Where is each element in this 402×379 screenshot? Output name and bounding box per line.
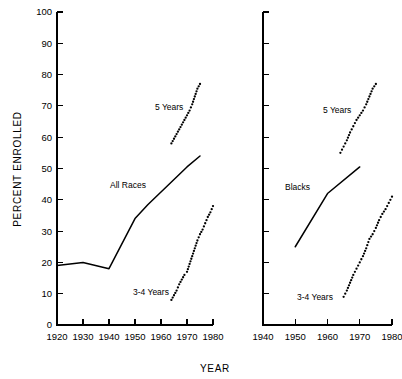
x-tick-label: 1920	[46, 331, 67, 342]
series-dot	[391, 196, 393, 198]
y-tick-label: 100	[36, 6, 52, 17]
series-dot	[372, 88, 374, 90]
series-dot	[354, 122, 356, 124]
series-dot	[342, 145, 344, 147]
series-dot	[351, 128, 353, 130]
series-dot	[347, 137, 349, 139]
x-tick-label: 1950	[285, 331, 306, 342]
series-dot	[347, 287, 349, 289]
series-dot	[181, 278, 183, 280]
series-dot	[188, 109, 190, 111]
series-label-3-4-years: 3-4 Years	[297, 292, 333, 302]
series-dot	[365, 103, 367, 105]
series-dot	[380, 216, 382, 218]
series-dot	[373, 230, 375, 232]
series-dot	[366, 244, 368, 246]
series-dot	[350, 279, 352, 281]
series-dot	[360, 258, 362, 260]
series-dot	[207, 216, 209, 218]
series-dot	[193, 250, 195, 252]
y-tick-label: 40	[41, 194, 52, 205]
y-tick-label: 50	[41, 163, 52, 174]
series-dot	[191, 103, 193, 105]
series-dot	[187, 112, 189, 114]
series-dot	[355, 119, 357, 121]
series-dot	[192, 252, 194, 254]
series-dot	[212, 205, 214, 207]
series-dot	[339, 152, 341, 154]
series-dot	[362, 255, 364, 257]
series-dot	[386, 205, 388, 207]
series-dot	[178, 283, 180, 285]
x-tick-label: 1940	[98, 331, 119, 342]
series-dot	[175, 133, 177, 135]
series-dot	[377, 222, 379, 224]
series-dot	[362, 109, 364, 111]
series-dot	[188, 265, 190, 267]
series-dot	[183, 274, 185, 276]
series-dot	[346, 139, 348, 141]
series-dot	[172, 140, 174, 142]
y-tick-label: 80	[41, 69, 52, 80]
series-dot	[177, 286, 179, 288]
series-line	[57, 156, 200, 269]
series-dot	[349, 131, 351, 133]
series-dot	[204, 222, 206, 224]
series-dot	[378, 219, 380, 221]
x-tick-label: 1980	[202, 331, 223, 342]
series-dot	[366, 101, 368, 103]
series-dot	[359, 261, 361, 263]
x-tick-label: 1930	[72, 331, 93, 342]
series-dot	[194, 247, 196, 249]
series-dot	[198, 85, 200, 87]
x-tick-label: 1950	[124, 331, 145, 342]
series-dot	[373, 85, 375, 87]
series-dot	[348, 284, 350, 286]
y-tick-label: 60	[41, 132, 52, 143]
series-dot	[367, 98, 369, 100]
series-dot	[208, 214, 210, 216]
series-dot	[351, 276, 353, 278]
series-dot	[195, 245, 197, 247]
x-axis-title: YEAR	[200, 363, 230, 374]
series-dot	[195, 90, 197, 92]
series-dot	[346, 289, 348, 291]
series-dot	[357, 264, 359, 266]
series-label-5-years: 5 Years	[323, 105, 351, 115]
series-dot	[198, 236, 200, 238]
y-tick-label: 20	[41, 257, 52, 268]
x-axis-title-text: YEAR	[200, 363, 230, 374]
series-dot	[200, 231, 202, 233]
series-dot	[209, 211, 211, 213]
series-dot	[383, 210, 385, 212]
series-dot	[367, 241, 369, 243]
series-label-3-4-years: 3-4 Years	[133, 287, 169, 297]
series-dot	[174, 135, 176, 137]
series-dot	[191, 255, 193, 257]
x-tick-label: 1960	[317, 331, 338, 342]
series-dot	[205, 219, 207, 221]
y-axis-title: PERCENT ENROLLED	[12, 111, 23, 227]
series-dot	[188, 263, 190, 265]
series-dot	[178, 128, 180, 130]
y-tick-label: 70	[41, 100, 52, 111]
series-dot	[363, 252, 365, 254]
x-tick-label: 1940	[252, 331, 273, 342]
series-dot	[177, 131, 179, 133]
series-dot	[368, 95, 370, 97]
series-label-main: All Races	[110, 180, 146, 190]
series-dot	[388, 202, 390, 204]
series-dot	[196, 88, 198, 90]
series-dot	[363, 106, 365, 108]
series-dot	[384, 208, 386, 210]
series-dot	[179, 126, 181, 128]
series-dot	[183, 119, 185, 121]
series-label-main: Blacks	[285, 182, 310, 192]
series-dot	[182, 121, 184, 123]
series-dot	[173, 138, 175, 140]
series-dot	[170, 299, 172, 301]
series-dot	[175, 289, 177, 291]
x-tick-label: 1980	[381, 331, 402, 342]
axis-spine	[57, 12, 213, 325]
series-dot	[181, 124, 183, 126]
